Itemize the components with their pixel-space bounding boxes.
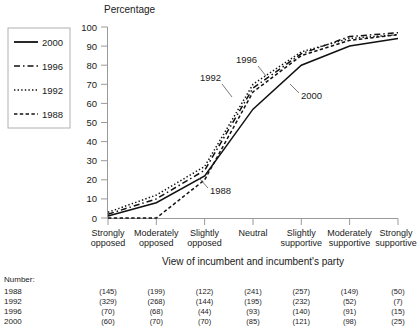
legend-label: 1996 (42, 61, 63, 72)
table-cell: (70) (101, 307, 115, 316)
legend-label: 2000 (42, 37, 63, 48)
y-tick-label: 60 (86, 98, 97, 109)
y-tick-label: 20 (86, 174, 97, 185)
x-tick-label: supportive (281, 238, 323, 248)
x-tick-label: opposed (139, 238, 174, 248)
table-cell: (25) (391, 317, 405, 326)
legend-item-1996[interactable]: 1996 (14, 61, 63, 72)
table-cell: (70) (150, 317, 164, 326)
table-cell: (122) (196, 287, 214, 296)
table-row: (145) (199) (122) (241) (257) (149) (50) (99, 287, 405, 296)
y-ticks (101, 27, 108, 218)
chart-figure: Percentage 2000 1996 1992 1988 (0, 0, 420, 334)
table-cell: (145) (99, 287, 117, 296)
table-cell: (140) (293, 307, 311, 316)
annotation-1996: 1996 (236, 54, 257, 65)
number-table-row-year: 2000 (4, 317, 22, 326)
y-tick-label: 40 (86, 136, 97, 147)
table-cell: (93) (246, 307, 260, 316)
legend-item-1988[interactable]: 1988 (14, 109, 63, 120)
table-cell: (329) (99, 297, 117, 306)
y-tick-label: 10 (86, 193, 97, 204)
x-tick-label: Moderately (327, 228, 372, 238)
chart-svg: Percentage 2000 1996 1992 1988 (0, 0, 420, 334)
x-tick-label: Slightly (287, 228, 317, 238)
table-cell: (68) (150, 307, 164, 316)
y-tick-label: 80 (86, 60, 97, 71)
table-cell: (98) (343, 317, 357, 326)
table-cell: (91) (343, 307, 357, 316)
x-tick-label: Moderately (134, 228, 179, 238)
table-cell: (268) (148, 297, 166, 306)
table-cell: (149) (341, 287, 359, 296)
series-line-2000 (108, 38, 398, 216)
y-tick-label: 30 (86, 155, 97, 166)
annotations: 1988 1992 1996 2000 (199, 54, 322, 196)
y-tick-label: 100 (81, 22, 97, 33)
x-tick-label: Strongly (91, 228, 125, 238)
table-cell: (85) (246, 317, 260, 326)
x-tick-label: supportive (329, 238, 371, 248)
legend: 2000 1996 1992 1988 (8, 28, 70, 128)
legend-item-2000[interactable]: 2000 (14, 37, 63, 48)
annotation-1992: 1992 (200, 72, 221, 83)
table-row: (60) (70) (70) (85) (121) (98) (25) (101, 317, 405, 326)
legend-item-1992[interactable]: 1992 (14, 85, 63, 96)
table-row: (70) (68) (44) (93) (140) (91) (15) (101, 307, 405, 316)
table-cell: (199) (148, 287, 166, 296)
x-tick-labels: Strongly opposed Moderately opposed Slig… (91, 228, 417, 248)
number-table-row-year: 1992 (4, 297, 22, 306)
y-axis-title: Percentage (104, 4, 156, 15)
x-tick-label: Slightly (190, 228, 220, 238)
y-tick-label: 70 (86, 79, 97, 90)
x-tick-label: opposed (91, 238, 126, 248)
table-cell: (7) (393, 297, 403, 306)
table-cell: (257) (293, 287, 311, 296)
table-cell: (232) (293, 297, 311, 306)
y-tick-labels: 100 90 80 70 60 50 40 30 20 10 0 (81, 22, 97, 224)
x-tick-label: Neutral (238, 228, 267, 238)
y-tick-label: 50 (86, 117, 97, 128)
x-axis-title: View of incumbent and incumbent's party (162, 256, 344, 267)
table-row: (329) (268) (144) (195) (232) (52) (7) (99, 297, 403, 306)
annotation-2000: 2000 (301, 90, 322, 101)
y-tick-label: 0 (92, 213, 97, 224)
x-ticks (108, 219, 398, 226)
annotation-1988: 1988 (210, 185, 231, 196)
x-tick-label: Strongly (379, 228, 413, 238)
number-table-row-year: 1996 (4, 307, 22, 316)
table-cell: (44) (198, 307, 212, 316)
table-cell: (52) (343, 297, 357, 306)
table-cell: (241) (244, 287, 262, 296)
legend-label: 1988 (42, 109, 63, 120)
table-cell: (195) (244, 297, 262, 306)
table-cell: (60) (101, 317, 115, 326)
number-table-caption: Number: (4, 275, 35, 284)
y-tick-label: 90 (86, 41, 97, 52)
table-cell: (50) (391, 287, 405, 296)
number-table: Number: 1988 1992 1996 2000 (145) (199) … (4, 275, 405, 326)
table-cell: (15) (391, 307, 405, 316)
number-table-row-year: 1988 (4, 287, 22, 296)
table-cell: (144) (196, 297, 214, 306)
table-cell: (70) (198, 317, 212, 326)
table-cell: (121) (293, 317, 311, 326)
legend-label: 1992 (42, 85, 63, 96)
x-tick-label: opposed (187, 238, 222, 248)
x-tick-label: supportive (375, 238, 417, 248)
